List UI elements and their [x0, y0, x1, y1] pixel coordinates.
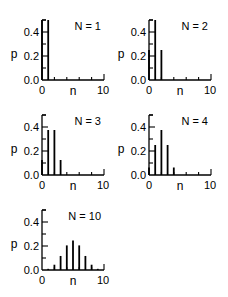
- y-axis-label: p: [118, 47, 125, 61]
- x-tick-label: 10: [204, 179, 216, 191]
- y-tick-label: 0.0: [24, 264, 39, 276]
- y-axis-label: p: [11, 47, 18, 61]
- panel-title: N = 4: [181, 115, 208, 127]
- y-tick-label: 0.4: [131, 26, 146, 38]
- x-tick-label: 0: [39, 179, 45, 191]
- y-tick-label: 0.2: [24, 50, 39, 62]
- y-tick-label: 0.2: [131, 145, 146, 157]
- y-tick-label: 0.0: [24, 169, 39, 181]
- y-tick-label: 0.2: [24, 240, 39, 252]
- y-axis-label: p: [11, 142, 18, 156]
- binomial-distribution-figure: 0.00.20.4p010nN = 10.00.20.4p010nN = 20.…: [0, 0, 228, 297]
- panel-title: N = 2: [181, 20, 208, 32]
- x-axis-label: n: [177, 84, 184, 98]
- x-tick-label: 0: [146, 84, 152, 96]
- x-tick-label: 10: [97, 84, 109, 96]
- chart-panel-5: 0.00.20.4p010nN = 10: [11, 210, 109, 288]
- y-tick-label: 0.2: [24, 145, 39, 157]
- x-tick-label: 0: [39, 84, 45, 96]
- x-tick-label: 10: [97, 274, 109, 286]
- panel-title: N = 3: [74, 115, 101, 127]
- x-tick-label: 0: [146, 179, 152, 191]
- y-tick-label: 0.0: [131, 74, 146, 86]
- y-tick-label: 0.2: [131, 50, 146, 62]
- y-tick-label: 0.4: [131, 121, 146, 133]
- x-axis-label: n: [70, 179, 77, 193]
- y-tick-label: 0.4: [24, 121, 39, 133]
- x-axis-label: n: [70, 274, 77, 288]
- y-tick-label: 0.0: [131, 169, 146, 181]
- chart-panel-3: 0.00.20.4p010nN = 3: [11, 115, 109, 193]
- x-axis-label: n: [70, 84, 77, 98]
- chart-panel-1: 0.00.20.4p010nN = 1: [11, 20, 109, 98]
- y-tick-label: 0.0: [24, 74, 39, 86]
- y-tick-label: 0.4: [24, 216, 39, 228]
- y-axis-label: p: [11, 237, 18, 251]
- x-tick-label: 0: [39, 274, 45, 286]
- x-tick-label: 10: [204, 84, 216, 96]
- chart-panel-2: 0.00.20.4p010nN = 2: [118, 20, 216, 98]
- x-tick-label: 10: [97, 179, 109, 191]
- y-tick-label: 0.4: [24, 26, 39, 38]
- x-axis-label: n: [177, 179, 184, 193]
- panel-title: N = 10: [68, 210, 101, 222]
- panel-title: N = 1: [74, 20, 101, 32]
- y-axis-label: p: [118, 142, 125, 156]
- chart-panel-4: 0.00.20.4p010nN = 4: [118, 115, 216, 193]
